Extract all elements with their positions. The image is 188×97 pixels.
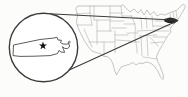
zoom-line-lower (67, 21, 178, 71)
zoom-line-upper (49, 14, 178, 20)
locator-map (0, 0, 188, 97)
locator-map-figure (0, 0, 188, 97)
